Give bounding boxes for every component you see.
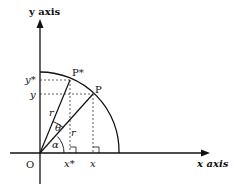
- alpha-label: α: [52, 139, 59, 150]
- theta-label: θ: [55, 122, 61, 133]
- right-angle-marker-x: [93, 147, 99, 153]
- radius-label-P: r: [71, 127, 77, 138]
- radius-label-P-star: r: [49, 107, 55, 118]
- x-axis-label: x axis: [196, 158, 229, 169]
- y-star-label: y*: [24, 74, 36, 85]
- x-star-label: x*: [64, 158, 75, 169]
- point-P-label: P: [95, 84, 102, 95]
- point-P-star-label: P*: [72, 67, 84, 78]
- y-axis-label: y axis: [28, 6, 61, 17]
- y-label: y: [29, 89, 36, 100]
- y-axis-arrow-icon: [37, 19, 44, 28]
- radius-to-P: [40, 94, 93, 153]
- right-angle-marker-x-star: [70, 147, 76, 153]
- origin-label: O: [26, 159, 34, 170]
- x-axis-arrow-icon: [201, 150, 210, 157]
- rotation-diagram: y axis x axis O P* P y* y x* x r r θ α: [0, 0, 234, 187]
- x-label: x: [90, 158, 96, 169]
